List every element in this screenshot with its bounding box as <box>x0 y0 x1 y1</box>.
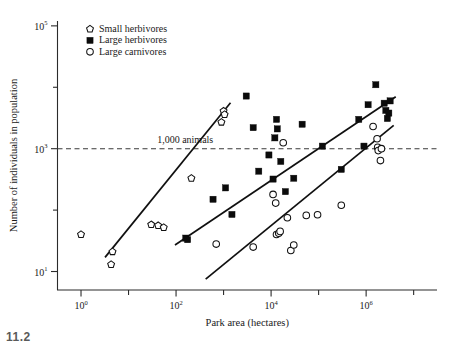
data-point-small-herbivores <box>108 261 115 268</box>
data-point-large-herbivores <box>278 158 284 164</box>
data-point-large-carnivores <box>270 191 277 198</box>
x-tick-label: 104 <box>264 299 278 312</box>
data-point-large-herbivores <box>299 121 305 127</box>
data-point-large-herbivores <box>387 98 393 104</box>
data-point-large-carnivores <box>213 241 220 248</box>
data-point-large-herbivores <box>266 152 272 158</box>
data-point-large-carnivores <box>303 212 310 219</box>
data-point-large-herbivores <box>243 93 249 99</box>
x-axis-title: Park area (hectares) <box>206 317 290 329</box>
data-point-large-carnivores <box>290 242 297 249</box>
legend-label-large-carnivores: Large carnivores <box>99 46 166 57</box>
x-tick-label: 100 <box>74 299 87 312</box>
data-point-large-carnivores <box>277 228 284 235</box>
data-point-small-herbivores <box>109 248 116 255</box>
data-point-small-herbivores <box>188 175 195 182</box>
data-point-large-herbivores <box>222 185 228 191</box>
data-point-large-carnivores <box>378 145 385 152</box>
data-point-large-carnivores <box>280 139 287 146</box>
trend-line-small-herbivores <box>105 103 230 258</box>
scatter-plot: 1011031051001021041061,000 animalsSmall … <box>0 0 459 345</box>
data-point-large-herbivores <box>185 237 191 243</box>
data-point-large-herbivores <box>373 82 379 88</box>
data-point-large-herbivores <box>274 126 280 132</box>
data-point-large-carnivores <box>338 202 345 209</box>
data-point-large-carnivores <box>284 214 291 221</box>
legend-label-large-herbivores: Large herbivores <box>99 34 167 45</box>
y-tick-label: 103 <box>34 142 47 155</box>
data-point-small-herbivores <box>78 231 85 238</box>
data-point-small-herbivores <box>218 119 225 126</box>
legend-marker-large-carnivores <box>87 49 94 56</box>
data-point-large-herbivores <box>210 196 216 202</box>
figure-caption-fragment: 11.2 <box>6 330 31 344</box>
trend-line-large-herbivores <box>175 97 396 245</box>
data-point-large-herbivores <box>229 211 235 217</box>
data-point-large-herbivores <box>291 175 297 181</box>
data-point-large-herbivores <box>361 143 367 149</box>
x-tick-label: 102 <box>169 299 182 312</box>
data-point-large-carnivores <box>250 244 257 251</box>
figure-container: 1011031051001021041061,000 animalsSmall … <box>0 0 459 345</box>
data-point-large-herbivores <box>356 116 362 122</box>
y-axis-title: Number of individuals in population <box>8 78 19 232</box>
data-point-small-herbivores <box>148 221 155 228</box>
data-point-large-herbivores <box>250 125 256 131</box>
data-point-large-carnivores <box>314 211 321 218</box>
legend-marker-small-herbivores <box>87 25 94 32</box>
data-point-large-carnivores <box>272 200 279 207</box>
legend-marker-large-herbivores <box>87 37 93 43</box>
y-tick-label: 105 <box>34 19 47 32</box>
data-point-large-herbivores <box>270 176 276 182</box>
data-point-large-herbivores <box>256 168 262 174</box>
legend-label-small-herbivores: Small herbivores <box>99 23 167 34</box>
x-tick-label: 106 <box>360 299 374 312</box>
data-point-large-herbivores <box>365 102 371 108</box>
data-point-large-herbivores <box>282 189 288 195</box>
data-point-large-carnivores <box>370 123 377 130</box>
data-point-large-carnivores <box>374 135 381 142</box>
data-point-large-herbivores <box>319 143 325 149</box>
data-point-large-herbivores <box>273 116 279 122</box>
data-point-large-herbivores <box>386 110 392 116</box>
data-point-large-herbivores <box>272 135 278 141</box>
data-point-large-herbivores <box>381 100 387 106</box>
data-point-large-herbivores <box>338 166 344 172</box>
data-point-large-carnivores <box>377 157 384 164</box>
y-tick-label: 101 <box>34 265 47 278</box>
